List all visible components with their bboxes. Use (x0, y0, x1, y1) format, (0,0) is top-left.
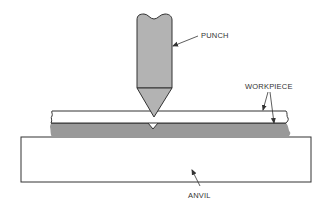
punch-diagram: PUNCH WORKPIECE ANVIL (0, 0, 328, 209)
punch-label: PUNCH (201, 31, 229, 40)
workpiece-leader-arrow-upper (263, 92, 268, 110)
anvil-label: ANVIL (188, 191, 211, 200)
upper-workpiece (51, 111, 288, 123)
punch-leader-arrow (173, 36, 198, 46)
workpiece-label: WORKPIECE (245, 82, 293, 91)
anvil (21, 137, 311, 182)
lower-workpiece (50, 123, 290, 137)
punch-body (137, 14, 172, 88)
